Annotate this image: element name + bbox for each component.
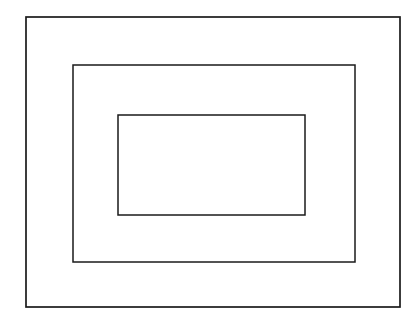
middle-rectangle <box>73 65 355 262</box>
figure-canvas <box>0 0 420 324</box>
inner-rectangle <box>118 115 305 215</box>
outer-rectangle <box>26 17 400 307</box>
nested-rectangles-diagram <box>0 0 420 324</box>
